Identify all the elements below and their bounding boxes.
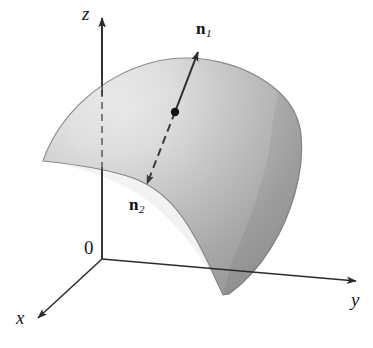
y-axis-label: y (351, 290, 359, 309)
figure-canvas (0, 0, 373, 348)
normal-n2-symbol: n (129, 195, 138, 214)
tangent-point-dot (171, 108, 179, 116)
surface-group (43, 58, 302, 295)
normal-n1-subscript: 1 (206, 27, 212, 39)
x-axis-line (38, 259, 102, 318)
surface-normal-figure: z y x 0 n1 n2 (0, 0, 373, 348)
origin-label: 0 (84, 238, 94, 257)
normal-n2-label: n2 (129, 196, 144, 213)
x-axis-label: x (16, 308, 24, 327)
normal-n2-subscript: 2 (139, 203, 145, 215)
z-axis-label: z (82, 4, 89, 23)
normal-n1-symbol: n (196, 19, 205, 38)
normal-n1-label: n1 (196, 20, 211, 37)
